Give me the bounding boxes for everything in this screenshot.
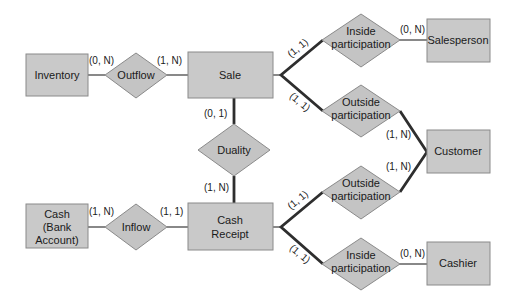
entity-cash-label-1: Cash <box>44 208 70 220</box>
card-sale-outside: (1, 1) <box>288 90 313 113</box>
card-inside-cashier: (0, N) <box>400 248 425 259</box>
er-diagram: Inventory Sale Salesperson Customer Cash… <box>0 0 514 304</box>
card-outflow-sale: (1, N) <box>157 55 182 66</box>
outside-participation-sale-label-2: participation <box>331 109 390 121</box>
relationship-inside-participation-sale[interactable]: Inside participation <box>322 14 400 67</box>
card-sale-inside: (1, 1) <box>285 36 310 59</box>
relationship-duality[interactable]: Duality <box>198 124 270 176</box>
card-inventory-outflow: (0, N) <box>89 55 114 66</box>
inside-participation-sale-label-1: Inside <box>346 25 375 37</box>
relationship-inflow[interactable]: Inflow <box>105 204 167 250</box>
entity-cash-label-2: (Bank <box>43 221 72 233</box>
card-outside-customer-bottom: (1, N) <box>386 161 411 172</box>
entity-cash[interactable]: Cash (Bank Account) <box>26 204 88 248</box>
entity-cash-label-3: Account) <box>35 234 78 246</box>
card-receipt-inside: (1, 1) <box>288 242 313 265</box>
card-sale-duality: (0, 1) <box>204 108 227 119</box>
entity-salesperson-label: Salesperson <box>427 34 488 46</box>
outside-participation-receipt-label-1: Outside <box>342 177 380 189</box>
inside-participation-receipt-label-2: participation <box>331 262 390 274</box>
entity-sale-label: Sale <box>219 69 241 81</box>
line-outside-customer <box>400 111 427 192</box>
entity-cash-receipt-label-1: Cash <box>217 214 243 226</box>
inside-participation-sale-label-2: participation <box>331 38 390 50</box>
entity-sale[interactable]: Sale <box>188 52 273 98</box>
card-receipt-outside: (1, 1) <box>285 188 310 211</box>
relationship-duality-label: Duality <box>217 144 251 156</box>
relationship-outside-participation-receipt[interactable]: Outside participation <box>322 166 400 219</box>
relationship-outflow-label: Outflow <box>117 69 154 81</box>
entity-cash-receipt[interactable]: Cash Receipt <box>188 203 273 250</box>
entity-inventory-label: Inventory <box>34 69 80 81</box>
relationship-inside-participation-receipt[interactable]: Inside participation <box>322 238 400 290</box>
entity-customer-label: Customer <box>434 145 482 157</box>
card-cash-inflow: (1, N) <box>89 206 114 217</box>
outside-participation-receipt-label-2: participation <box>331 190 390 202</box>
entity-cash-receipt-label-2: Receipt <box>211 228 248 240</box>
card-outside-customer-top: (1, N) <box>386 129 411 140</box>
card-inside-salesperson: (0, N) <box>400 24 425 35</box>
entity-customer[interactable]: Customer <box>427 130 490 173</box>
relationship-inflow-label: Inflow <box>122 221 151 233</box>
entity-salesperson[interactable]: Salesperson <box>427 19 490 62</box>
entity-cashier-label: Cashier <box>439 257 477 269</box>
inside-participation-receipt-label-1: Inside <box>346 249 375 261</box>
card-inflow-receipt: (1, 1) <box>160 206 183 217</box>
card-duality-receipt: (1, N) <box>204 182 229 193</box>
outside-participation-sale-label-1: Outside <box>342 96 380 108</box>
entity-cashier[interactable]: Cashier <box>427 242 490 285</box>
entity-inventory[interactable]: Inventory <box>26 54 88 96</box>
